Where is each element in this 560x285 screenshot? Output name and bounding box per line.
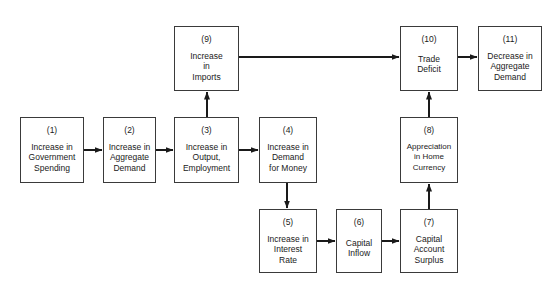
box-number: (9) — [175, 34, 238, 45]
box-8-currency-appreciation: (8) Appreciation in Home Currency — [400, 117, 458, 183]
box-5-interest-rate: (5) Increase in Interest Rate — [259, 209, 317, 273]
box-label: Trade Deficit — [401, 54, 457, 75]
box-label: Increase in Government Spending — [21, 142, 83, 174]
box-number: (10) — [401, 34, 457, 45]
box-label: Capital Inflow — [337, 238, 381, 259]
box-number: (2) — [104, 125, 155, 136]
box-label: Decrease in Aggregate Demand — [479, 51, 541, 83]
box-number: (7) — [401, 217, 457, 228]
box-label: Appreciation in Home Currency — [401, 142, 457, 174]
box-9-imports: (9) Increase in Imports — [174, 26, 239, 91]
box-label: Increase in Imports — [175, 51, 238, 83]
box-number: (6) — [337, 217, 381, 228]
box-6-capital-inflow: (6) Capital Inflow — [336, 209, 382, 273]
box-3-output-employment: (3) Increase in Output, Employment — [174, 117, 239, 183]
box-label: Increase in Aggregate Demand — [104, 142, 155, 174]
box-2-aggregate-demand: (2) Increase in Aggregate Demand — [103, 117, 156, 183]
box-label: Increase in Output, Employment — [175, 142, 238, 174]
box-label: Increase in Demand for Money — [260, 142, 316, 174]
box-1-government-spending: (1) Increase in Government Spending — [20, 117, 84, 183]
box-10-trade-deficit: (10) Trade Deficit — [400, 26, 458, 91]
box-4-demand-for-money: (4) Increase in Demand for Money — [259, 117, 317, 183]
box-7-capital-account-surplus: (7) Capital Account Surplus — [400, 209, 458, 273]
box-number: (8) — [401, 125, 457, 136]
box-number: (5) — [260, 217, 316, 228]
box-number: (11) — [479, 34, 541, 45]
box-number: (3) — [175, 125, 238, 136]
box-label: Increase in Interest Rate — [260, 234, 316, 266]
box-label: Capital Account Surplus — [401, 234, 457, 266]
box-11-decrease-aggregate-demand: (11) Decrease in Aggregate Demand — [478, 26, 542, 91]
box-number: (4) — [260, 125, 316, 136]
box-number: (1) — [21, 125, 83, 136]
